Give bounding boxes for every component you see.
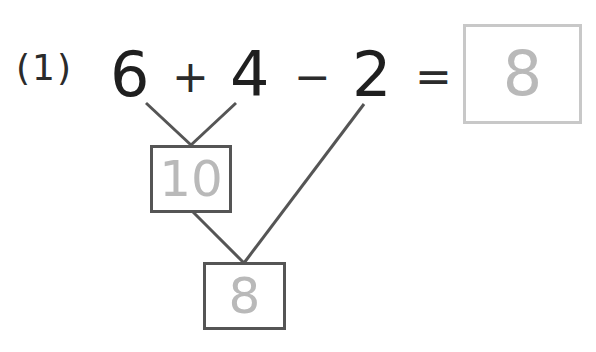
- intermediate-result: 10: [159, 154, 223, 204]
- final-result: 8: [229, 271, 261, 321]
- line-10-to-8: [193, 212, 244, 263]
- operand-4: 4: [230, 44, 269, 106]
- final-result-box[interactable]: 8: [203, 262, 286, 330]
- final-answer: 8: [503, 43, 542, 105]
- equals-sign: =: [415, 55, 452, 99]
- line-6-to-10: [146, 103, 191, 145]
- line-2-to-8: [244, 104, 364, 263]
- final-answer-box[interactable]: 8: [463, 24, 582, 124]
- minus-sign: −: [294, 55, 331, 99]
- operand-6: 6: [110, 44, 149, 106]
- plus-sign: +: [172, 55, 209, 99]
- problem-label: (1): [16, 47, 73, 88]
- intermediate-result-box[interactable]: 10: [150, 145, 232, 213]
- operand-2: 2: [352, 44, 391, 106]
